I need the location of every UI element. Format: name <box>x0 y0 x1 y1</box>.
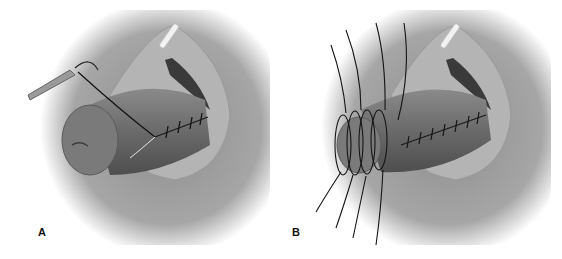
panel-label-a: A <box>38 226 46 238</box>
panel-b: B <box>281 0 562 259</box>
surgical-illustration-a <box>0 0 281 259</box>
distal-end <box>62 105 118 175</box>
panel-label-b: B <box>292 226 300 238</box>
surgical-illustration-b <box>281 0 562 259</box>
panel-a: A <box>0 0 281 259</box>
